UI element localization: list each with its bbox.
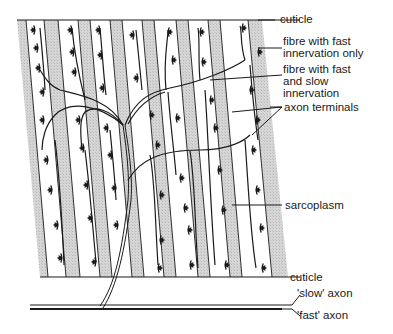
label-fast-axon: 'fast' axon <box>297 309 348 321</box>
fibre-shaded-6 <box>176 20 210 277</box>
fibre-shaded-2 <box>44 20 80 277</box>
label-fibre-fast-only: fibre with fast innervation only <box>283 35 364 59</box>
fibre-stripes <box>17 20 288 277</box>
label-fibre-fast-slow: fibre with fast and slow innervation <box>283 63 351 99</box>
fibre-shaded-5 <box>142 20 176 277</box>
label-sarcoplasm: sarcoplasm <box>285 199 344 211</box>
label-cuticle-bottom: cuticle <box>290 271 323 283</box>
label-slow-axon: 'slow' axon <box>297 287 353 299</box>
label-axon-terminals: axon terminals <box>284 101 359 113</box>
fibre-shaded-1 <box>17 20 48 277</box>
label-cuticle-top: cuticle <box>280 13 313 25</box>
